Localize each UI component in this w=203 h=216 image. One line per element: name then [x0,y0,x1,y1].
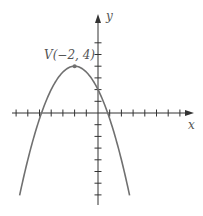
x-axis-label: x [188,118,195,132]
vertex-point [73,64,77,68]
y-axis-label: y [105,9,113,23]
parabola-graph: V(−2, 4) x y [0,0,203,216]
x-axis-arrow-icon [185,110,194,116]
parabola-curve [20,66,130,195]
vertex-label: V(−2, 4) [44,48,95,62]
y-axis-arrow-icon [95,14,101,23]
